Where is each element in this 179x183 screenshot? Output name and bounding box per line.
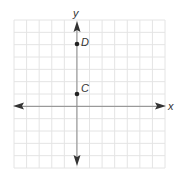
point-c-label: C: [81, 82, 89, 94]
point-d-marker: [75, 42, 80, 47]
x-axis-label: x: [167, 100, 174, 112]
point-d-label: D: [81, 36, 89, 48]
grid-lines: [14, 20, 165, 168]
y-axis-label: y: [72, 7, 80, 19]
coordinate-plane: x y D C: [0, 0, 179, 183]
point-c-marker: [75, 92, 80, 97]
